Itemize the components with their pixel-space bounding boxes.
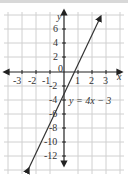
- origin-label: 0: [58, 63, 63, 74]
- equation-label: y = 4x − 3: [68, 95, 111, 106]
- y-tick: -10: [44, 136, 57, 147]
- x-tick: -2: [28, 75, 36, 86]
- y-tick: -6: [49, 108, 57, 119]
- y-tick: 4: [53, 37, 58, 48]
- y-tick: 2: [53, 51, 58, 62]
- y-tick: -2: [49, 80, 57, 91]
- axes: [6, 12, 120, 164]
- y-tick: -4: [49, 94, 57, 105]
- y-tick: 6: [53, 23, 58, 34]
- graph: y x 0 -3 -2 -1 1 2 3 6 4 2 -2 -4 -6 -8 -…: [0, 0, 128, 176]
- x-tick: -3: [13, 75, 21, 86]
- y-axis-label: y: [56, 11, 62, 22]
- x-tick: 2: [89, 75, 94, 86]
- x-tick: 1: [75, 75, 80, 86]
- y-tick: -8: [49, 122, 57, 133]
- x-tick: 3: [103, 75, 108, 86]
- x-axis-label: x: [116, 71, 122, 82]
- y-tick: -12: [44, 150, 57, 161]
